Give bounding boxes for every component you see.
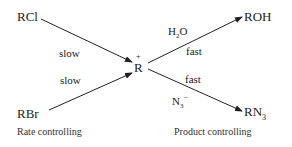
cation-label: R bbox=[134, 60, 143, 75]
reagent-azide: N3− bbox=[172, 93, 188, 110]
reactant-rbr: RBr bbox=[17, 106, 39, 122]
product-roh: ROH bbox=[244, 9, 271, 25]
edge-label-slow-bottom: slow bbox=[60, 74, 81, 86]
edge-label-fast-top: fast bbox=[186, 45, 202, 57]
arrow-rcl-to-cation bbox=[41, 19, 132, 62]
caption-rate-controlling: Rate controlling bbox=[17, 126, 82, 137]
product-rn3: RN3 bbox=[244, 104, 266, 122]
reagent-water: H2O bbox=[168, 25, 187, 40]
intermediate-cation: R + bbox=[134, 60, 143, 76]
reactant-rcl: RCl bbox=[17, 9, 38, 25]
edge-label-fast-bottom: fast bbox=[185, 73, 201, 85]
caption-product-controlling: Product controlling bbox=[174, 126, 252, 137]
cation-charge: + bbox=[136, 52, 141, 61]
edge-label-slow-top: slow bbox=[59, 47, 80, 59]
